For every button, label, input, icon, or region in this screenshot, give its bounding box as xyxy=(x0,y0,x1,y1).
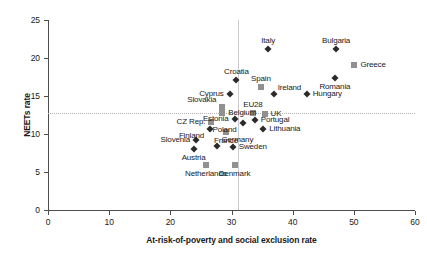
x-tick-label: 20 xyxy=(166,217,175,227)
y-tick xyxy=(44,58,48,59)
x-tick-label: 60 xyxy=(410,217,419,227)
x-tick-label: 0 xyxy=(46,217,51,227)
x-axis-title: At-risk-of-poverty and social exclusion … xyxy=(146,235,316,245)
point-label-slovenia: Slovenia xyxy=(161,135,191,144)
data-point-cyprus xyxy=(226,91,233,98)
data-point-spain xyxy=(258,84,264,90)
x-tick xyxy=(48,211,49,215)
x-tick xyxy=(109,211,110,215)
point-label-ireland: Ireland xyxy=(278,83,301,92)
y-tick-label: 25 xyxy=(20,15,40,25)
point-label-lithuania: Lithuania xyxy=(269,124,300,133)
data-point-lithuania xyxy=(260,125,267,132)
data-point-ireland xyxy=(270,91,277,98)
data-point-poland xyxy=(239,119,246,126)
data-point-italy xyxy=(265,45,272,52)
y-tick-label: 0 xyxy=(20,205,40,215)
data-point-denmark xyxy=(232,162,238,168)
y-tick xyxy=(44,20,48,21)
y-tick xyxy=(44,134,48,135)
point-label-bulgaria: Bulgaria xyxy=(322,36,350,45)
point-label-austria: Austria xyxy=(182,153,206,162)
data-point-netherlands xyxy=(203,162,209,168)
data-point-slovakia xyxy=(219,104,225,110)
y-tick xyxy=(44,96,48,97)
point-label-italy: Italy xyxy=(261,36,275,45)
x-tick-label: 30 xyxy=(227,217,236,227)
point-label-spain: Spain xyxy=(251,74,271,83)
x-tick-label: 50 xyxy=(349,217,358,227)
point-label-sweden: Sweden xyxy=(239,142,267,151)
point-label-hungary: Hungary xyxy=(313,89,342,98)
data-point-bulgaria xyxy=(333,45,340,52)
y-axis-line xyxy=(48,20,49,210)
data-point-hungary xyxy=(303,91,310,98)
x-tick-label: 10 xyxy=(105,217,114,227)
scatter-chart: 01020304050600510152025 ItalyBulgariaGre… xyxy=(0,0,427,262)
data-point-greece xyxy=(351,62,357,68)
y-tick xyxy=(44,210,48,211)
point-label-estonia: Estonia xyxy=(203,114,229,123)
point-label-croatia: Croatia xyxy=(224,67,249,76)
point-label-greece: Greece xyxy=(360,60,385,69)
point-label-portugal: Portugal xyxy=(261,115,290,124)
y-tick-label: 20 xyxy=(20,53,40,63)
point-label-denmark: Denmark xyxy=(219,169,250,178)
y-axis-title: NEETs rate xyxy=(22,93,32,137)
point-label-slovakia: Slovakia xyxy=(187,95,216,104)
x-tick xyxy=(293,211,294,215)
point-label-poland: Poland xyxy=(212,125,236,134)
y-tick xyxy=(44,172,48,173)
x-tick xyxy=(170,211,171,215)
x-tick xyxy=(354,211,355,215)
point-label-eu28: EU28 xyxy=(243,100,262,109)
point-label-belgium: Belgium xyxy=(228,108,256,117)
data-point-croatia xyxy=(233,76,240,83)
data-point-austria xyxy=(190,146,197,153)
y-tick-label: 5 xyxy=(20,167,40,177)
x-tick xyxy=(232,211,233,215)
point-label-cz-rep: CZ Rep. xyxy=(177,117,206,126)
x-tick-label: 40 xyxy=(288,217,297,227)
x-tick xyxy=(415,211,416,215)
data-point-romania xyxy=(331,74,338,81)
